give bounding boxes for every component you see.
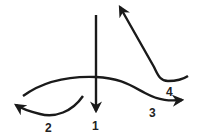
- arrow-4-curve: [120, 7, 188, 81]
- label-1: 1: [92, 119, 99, 133]
- arrow-3-curve: [23, 77, 182, 101]
- arrow-2-curve: [16, 96, 83, 115]
- diagram-canvas: 1 2 3 4: [0, 0, 201, 140]
- arrows-diagram: 1 2 3 4: [0, 0, 201, 140]
- label-2: 2: [45, 121, 52, 135]
- label-3: 3: [149, 106, 156, 120]
- label-4: 4: [166, 85, 173, 99]
